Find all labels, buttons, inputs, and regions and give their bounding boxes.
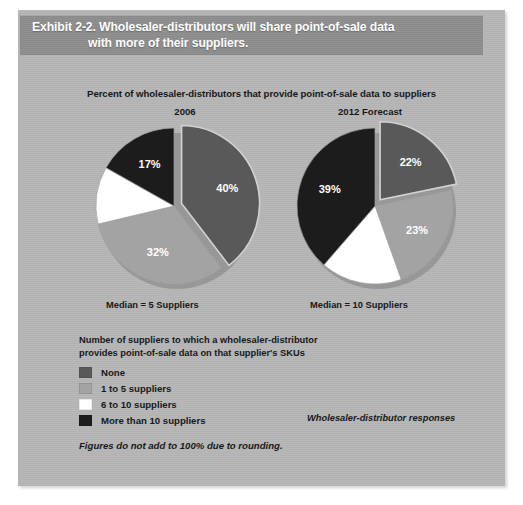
legend-swatch-more-than-10 bbox=[79, 415, 92, 426]
median-label-2006: Median = 5 Suppliers bbox=[106, 300, 199, 310]
legend-heading: Number of suppliers to which a wholesale… bbox=[79, 334, 469, 359]
pie-title-2006: 2006 bbox=[120, 106, 250, 117]
legend-label-1-to-5: 1 to 5 suppliers bbox=[101, 383, 171, 394]
legend-item-none: None bbox=[79, 364, 469, 380]
exhibit-title-line-2: with more of their suppliers. bbox=[32, 35, 483, 51]
exhibit-title-line-1: Exhibit 2-2. Wholesaler-distributors wil… bbox=[32, 19, 483, 35]
pie-slice-label: 17% bbox=[355, 248, 377, 260]
pie-slice-label: 23% bbox=[406, 224, 428, 236]
exhibit-figure: Exhibit 2-2. Wholesaler-distributors wil… bbox=[0, 0, 523, 505]
legend-label-more-than-10: More than 10 suppliers bbox=[101, 415, 206, 426]
chart-subheading: Percent of wholesaler-distributors that … bbox=[0, 88, 523, 99]
pie-chart-2006: 40%32%12%17% bbox=[86, 120, 266, 299]
pie-chart-2006-svg: 40%32%12%17% bbox=[86, 120, 266, 295]
median-label-2012-forecast: Median = 10 Suppliers bbox=[310, 300, 408, 310]
legend-swatch-none bbox=[79, 367, 92, 378]
chart-footnote: Figures do not add to 100% due to roundi… bbox=[79, 440, 283, 451]
pie-slice-label: 32% bbox=[147, 246, 169, 258]
legend-label-6-to-10: 6 to 10 suppliers bbox=[101, 399, 177, 410]
legend-swatch-6-to-10 bbox=[79, 399, 92, 410]
pie-slice-label: 17% bbox=[139, 158, 161, 170]
legend-item-1-to-5: 1 to 5 suppliers bbox=[79, 380, 469, 396]
legend-heading-line-2: provides point-of-sale data on that supp… bbox=[79, 347, 469, 360]
legend-swatch-1-to-5 bbox=[79, 383, 92, 394]
pie-slice-label: 12% bbox=[115, 193, 137, 205]
legend-label-none: None bbox=[101, 367, 125, 378]
responses-note: Wholesaler-distributor responses bbox=[307, 413, 455, 423]
pie-slice-label: 22% bbox=[400, 156, 422, 168]
pie-slice-label: 39% bbox=[319, 183, 341, 195]
legend-item-6-to-10: 6 to 10 suppliers bbox=[79, 396, 469, 412]
legend-heading-line-1: Number of suppliers to which a wholesale… bbox=[79, 334, 469, 347]
exhibit-title-bar: Exhibit 2-2. Wholesaler-distributors wil… bbox=[20, 15, 483, 55]
pie-chart-2012-forecast-svg: 22%23%17%39% bbox=[287, 120, 467, 295]
pie-chart-2012-forecast: 22%23%17%39% bbox=[287, 120, 467, 299]
legend-item-more-than-10: More than 10 suppliers Wholesaler-distri… bbox=[79, 412, 469, 428]
pie-slice-label: 40% bbox=[216, 182, 238, 194]
pie-title-2012-forecast: 2012 Forecast bbox=[295, 106, 445, 117]
chart-legend: Number of suppliers to which a wholesale… bbox=[79, 334, 469, 428]
